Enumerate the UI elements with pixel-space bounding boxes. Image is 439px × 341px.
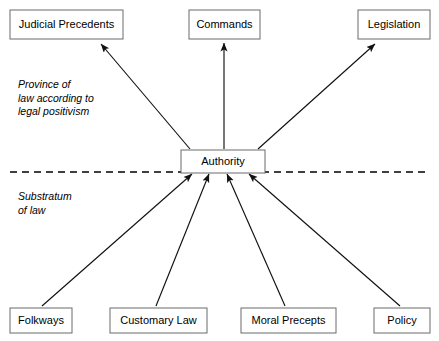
edge-customary-law-to-authority — [156, 174, 209, 306]
upper-region-label-line-3: legal positivism — [18, 105, 89, 117]
upper-region-label-line-1: Province of — [18, 78, 72, 90]
lower-region-label: Substratumof law — [18, 190, 72, 216]
node-label-policy: Policy — [387, 314, 417, 326]
edge-authority-to-legislation — [258, 44, 375, 149]
edges-to-upper-nodes — [101, 43, 375, 149]
node-policy[interactable]: Policy — [374, 308, 430, 333]
upper-region-label: Province oflaw according tolegal positiv… — [18, 78, 94, 117]
edge-authority-to-judicial-precedents — [101, 44, 190, 149]
node-label-customary-law: Customary Law — [120, 314, 196, 326]
node-folkways[interactable]: Folkways — [10, 308, 72, 333]
diagram-canvas: Judicial PrecedentsCommandsLegislationFo… — [0, 0, 439, 341]
node-moral-precepts[interactable]: Moral Precepts — [241, 308, 336, 333]
node-label-legislation: Legislation — [368, 18, 421, 30]
node-label-folkways: Folkways — [18, 314, 64, 326]
edges-from-lower-nodes — [42, 174, 400, 306]
edge-policy-to-authority — [249, 174, 400, 306]
upper-region-label-line-2: law according to — [18, 92, 94, 104]
lower-region-label-line-1: Substratum — [18, 190, 72, 202]
node-authority[interactable]: Authority — [181, 150, 265, 173]
lower-region-label-line-2: of law — [18, 204, 47, 216]
node-legislation[interactable]: Legislation — [358, 10, 430, 39]
node-customary-law[interactable]: Customary Law — [110, 308, 207, 333]
diagram-root: Judicial PrecedentsCommandsLegislationFo… — [0, 0, 439, 341]
node-label-moral-precepts: Moral Precepts — [252, 314, 326, 326]
edge-moral-precepts-to-authority — [227, 174, 285, 306]
node-label-commands: Commands — [196, 18, 253, 30]
node-label-authority: Authority — [201, 155, 245, 167]
node-commands[interactable]: Commands — [189, 10, 260, 39]
node-label-judicial-precedents: Judicial Precedents — [19, 18, 115, 30]
node-judicial-precedents[interactable]: Judicial Precedents — [10, 10, 123, 39]
region-labels: Province oflaw according tolegal positiv… — [18, 78, 94, 216]
